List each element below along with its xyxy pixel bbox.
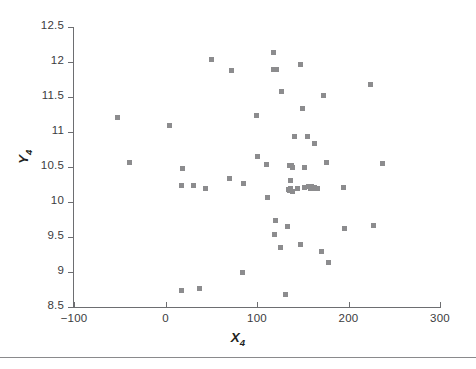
- data-point: [312, 185, 317, 190]
- data-point: [298, 62, 303, 67]
- data-point: [319, 249, 324, 254]
- data-point: [368, 82, 373, 87]
- data-point: [191, 183, 196, 188]
- x-axis-tick-label: 200: [319, 312, 379, 324]
- y-axis-title-base: Y: [16, 155, 31, 164]
- data-point: [127, 160, 132, 165]
- data-point: [290, 165, 295, 170]
- data-point: [380, 161, 385, 166]
- x-axis-tick-label: 300: [410, 312, 470, 324]
- bottom-divider-rule: [0, 357, 476, 358]
- data-point: [305, 134, 310, 139]
- data-point: [203, 186, 208, 191]
- scatter-plot-figure: 8.599.51010.51111.51212.5 −1000100200300…: [0, 0, 476, 369]
- data-point: [341, 185, 346, 190]
- data-point: [273, 218, 278, 223]
- y-axis-tick-label: 10.5: [41, 159, 64, 171]
- data-point: [271, 50, 276, 55]
- data-point: [227, 176, 232, 181]
- y-axis-tick-label: 11: [52, 124, 64, 136]
- plot-area: [74, 27, 440, 307]
- data-point: [272, 232, 277, 237]
- x-axis-tick: [440, 302, 441, 308]
- data-point: [274, 67, 279, 72]
- data-point: [288, 186, 293, 191]
- data-point: [279, 89, 284, 94]
- data-point: [255, 154, 260, 159]
- y-axis-tick-label: 9.5: [47, 229, 64, 241]
- data-point: [321, 93, 326, 98]
- y-axis-title: Y4: [16, 142, 34, 172]
- data-point: [298, 242, 303, 247]
- x-axis-tick: [74, 302, 75, 308]
- data-point: [115, 115, 120, 120]
- data-point: [295, 186, 300, 191]
- x-axis-tick-label: −100: [44, 312, 104, 324]
- data-point: [324, 160, 329, 165]
- data-point: [306, 184, 311, 189]
- y-axis-title-subscript: 4: [23, 150, 34, 155]
- y-axis-tick-label: 10: [51, 194, 64, 206]
- x-axis-tick: [166, 302, 167, 308]
- data-point: [278, 245, 283, 250]
- y-axis-tick-label: 11.5: [42, 89, 64, 101]
- y-axis-tick: [68, 272, 74, 273]
- data-point: [288, 178, 293, 183]
- y-axis-tick: [68, 97, 74, 98]
- x-axis-tick: [257, 302, 258, 308]
- data-point: [342, 226, 347, 231]
- y-axis-tick: [68, 27, 74, 28]
- data-point: [264, 162, 269, 167]
- data-point: [167, 123, 172, 128]
- y-axis-tick-label: 9: [57, 264, 64, 276]
- data-point: [179, 183, 184, 188]
- x-axis-title-base: X: [231, 330, 240, 345]
- data-point: [302, 165, 307, 170]
- x-axis-tick-label: 100: [227, 312, 287, 324]
- x-axis-title-subscript: 4: [240, 337, 245, 348]
- data-point: [285, 224, 290, 229]
- data-point: [326, 260, 331, 265]
- data-point: [254, 113, 259, 118]
- x-axis-tick: [349, 302, 350, 308]
- x-axis-tick-label: 0: [136, 312, 196, 324]
- data-point: [312, 141, 317, 146]
- data-point: [300, 106, 305, 111]
- data-point: [241, 181, 246, 186]
- data-point: [209, 57, 214, 62]
- y-axis-tick-label: 12: [51, 54, 64, 66]
- data-point: [179, 288, 184, 293]
- y-axis-tick: [68, 132, 74, 133]
- data-point: [371, 223, 376, 228]
- data-point: [180, 166, 185, 171]
- y-axis-tick: [68, 237, 74, 238]
- x-axis-title: X4: [0, 330, 476, 348]
- y-axis-tick: [68, 62, 74, 63]
- data-point: [292, 134, 297, 139]
- y-axis-tick-label: 12.5: [41, 19, 64, 31]
- data-point: [283, 292, 288, 297]
- y-axis-tick-label: 8.5: [47, 299, 64, 311]
- y-axis-tick: [68, 202, 74, 203]
- y-axis-tick: [68, 167, 74, 168]
- data-point: [240, 270, 245, 275]
- data-point: [229, 68, 234, 73]
- data-point: [197, 286, 202, 291]
- data-point: [265, 195, 270, 200]
